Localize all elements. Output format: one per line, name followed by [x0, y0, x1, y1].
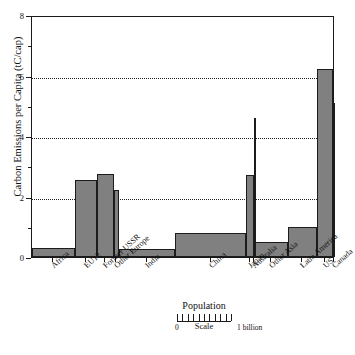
plot-area: [31, 16, 334, 258]
bar: [75, 180, 97, 257]
y-axis-title: Carbon Emissions per Capita (tC/cap): [12, 12, 23, 222]
scale-tick: [204, 314, 205, 321]
scale-tick: [209, 314, 210, 321]
scale-tick: [177, 314, 178, 321]
y-axis-tick-label: 2: [20, 193, 24, 202]
scale-tick: [193, 314, 194, 321]
y-axis-tick-label: 4: [20, 133, 24, 142]
scale-tick: [199, 314, 200, 321]
bar: [317, 69, 333, 257]
population-scale-title: Population: [144, 300, 264, 311]
scale-tick: [226, 314, 227, 321]
scale-tick: [182, 314, 183, 321]
scale-tick: [215, 314, 216, 321]
scale-tick: [231, 314, 232, 321]
bar-series: [32, 17, 333, 257]
population-scale-legend: Population 0 1 billion Scale: [144, 300, 264, 322]
y-axis-tick-label: 6: [20, 72, 24, 81]
y-axis: Carbon Emissions per Capita (tC/cap) 024…: [0, 16, 31, 258]
scale-tick: [220, 314, 221, 321]
y-axis-tick: [26, 258, 31, 259]
scale-tick: [188, 314, 189, 321]
figure-caption: [10, 348, 340, 355]
bar: [246, 175, 253, 257]
y-axis-tick-label: 8: [20, 12, 24, 21]
y-axis-tick-label: 0: [20, 254, 24, 263]
bar: [254, 118, 256, 257]
bar: [175, 233, 246, 257]
scale-caption: Scale: [144, 321, 264, 331]
bar: [97, 174, 114, 257]
